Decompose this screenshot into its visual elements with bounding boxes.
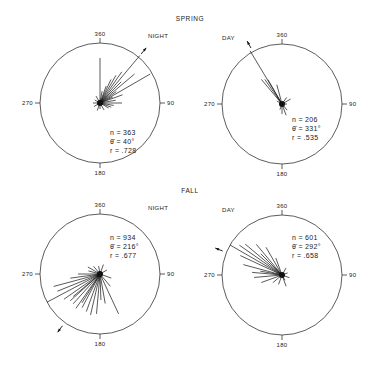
center-cluster [97, 100, 103, 106]
axis-label-bottom: 180 [95, 341, 106, 347]
stat-n: n = 934 [110, 234, 136, 241]
axis-label-bottom: 180 [95, 170, 106, 176]
stat-r: r = .535 [292, 134, 318, 141]
stat-r: r = .728 [110, 147, 136, 154]
stat-theta: θ̄ = 40° [110, 138, 135, 145]
center-cluster [279, 272, 285, 278]
panel-spring-night: 36090180270NIGHTn = 363θ̄ = 40°r = .728 [22, 31, 175, 176]
stat-n: n = 363 [110, 129, 136, 136]
direction-ray [100, 74, 150, 103]
axis-label-left: 270 [22, 271, 33, 277]
mean-direction-arrow-icon [215, 248, 222, 251]
panel-fall-night: 36090180270NIGHTn = 934θ̄ = 216°r = .677 [22, 202, 175, 347]
mean-direction-arrow-icon [247, 41, 251, 48]
axis-label-left: 270 [204, 101, 215, 107]
mean-direction-arrow-icon [58, 326, 63, 332]
direction-ray [100, 274, 119, 314]
axis-label-left: 270 [204, 272, 215, 278]
panel-spring-day: 36090180270DAYn = 206θ̄ = 331°r = .535 [204, 32, 357, 177]
axis-label-right: 90 [349, 272, 357, 278]
stat-n: n = 206 [292, 116, 318, 123]
axis-label-right: 90 [167, 100, 175, 106]
axis-label-top: 360 [95, 202, 106, 208]
panel-title: NIGHT [148, 33, 168, 39]
panel-title: DAY [222, 35, 235, 41]
direction-ray [268, 80, 282, 104]
stat-theta: θ̄ = 216° [110, 243, 139, 250]
axis-label-top: 360 [277, 203, 288, 209]
axis-label-top: 360 [95, 31, 106, 37]
stat-n: n = 601 [292, 234, 318, 241]
stat-r: r = .677 [110, 252, 136, 259]
panel-title: NIGHT [148, 205, 168, 211]
axis-label-right: 90 [349, 101, 357, 107]
center-cluster [279, 101, 285, 107]
center-cluster [97, 271, 103, 277]
stat-r: r = .658 [292, 252, 318, 259]
stat-theta: θ̄ = 292° [292, 243, 321, 250]
direction-ray [265, 79, 282, 104]
axis-label-left: 270 [22, 100, 33, 106]
mean-direction-arrow-icon [141, 48, 146, 54]
panel-title: DAY [222, 207, 235, 213]
stat-theta: θ̄ = 331° [292, 125, 321, 132]
section-title-spring: SPRING [176, 15, 205, 22]
axis-label-right: 90 [167, 271, 175, 277]
panel-fall-day: 36090180270DAYn = 601θ̄ = 292°r = .658 [204, 203, 357, 348]
section-title-fall: FALL [181, 187, 199, 194]
direction-ray [230, 245, 282, 275]
axis-label-bottom: 180 [277, 342, 288, 348]
circular-statistics-figure: SPRING FALL 36090180270NIGHTn = 363θ̄ = … [0, 0, 377, 371]
axis-label-bottom: 180 [277, 171, 288, 177]
axis-label-top: 360 [277, 32, 288, 38]
